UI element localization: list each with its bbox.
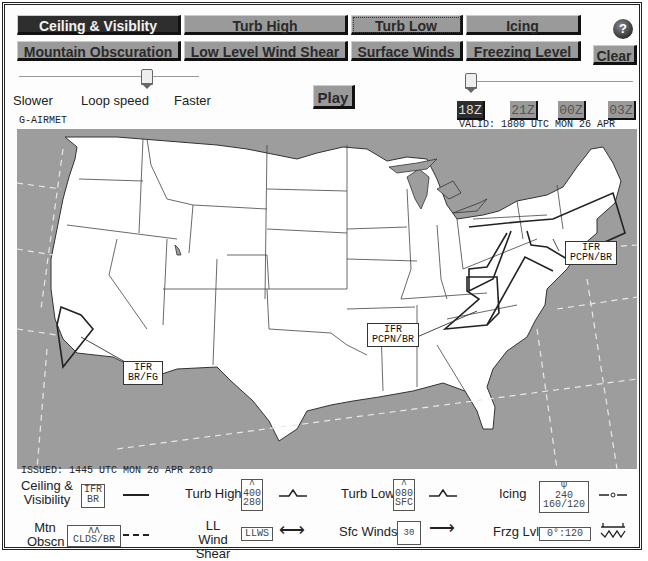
double-arrow-icon: ⟷ (279, 523, 305, 537)
legend-turb-low-line-icon (429, 489, 457, 499)
map-label-socal: IFRBR/FG (123, 361, 163, 385)
legend-sfc-winds-box: 30 (397, 521, 421, 545)
legend-solid-line-icon (123, 494, 149, 496)
legend-turb-low-box: ^080SFC (393, 479, 415, 511)
gairmet-window: Ceiling & Visiblity Turb High Turb Low I… (2, 2, 642, 550)
map-label-northeast: IFRPCPN/BR (565, 241, 617, 265)
time-button-03z[interactable]: 03Z (608, 101, 636, 120)
legend-dashed-line-icon (123, 534, 149, 536)
legend-sfc-winds-label: Sfc Winds (339, 525, 398, 539)
faster-label: Faster (174, 93, 211, 108)
low-level-wind-shear-button[interactable]: Low Level Wind Shear (184, 41, 348, 61)
legend-turb-high-box: ^400280 (241, 479, 263, 511)
time-button-00z[interactable]: 00Z (558, 101, 586, 120)
turb-low-button[interactable]: Turb Low (351, 15, 463, 35)
ceiling-visibility-button[interactable]: Ceiling & Visiblity (17, 15, 181, 35)
product-label: G-AIRMET (19, 115, 67, 126)
legend-mtn-obscn-label: MtnObscn (27, 521, 63, 549)
help-button[interactable]: ? (613, 19, 633, 39)
turb-high-button[interactable]: Turb High (184, 15, 348, 35)
slower-label: Slower (13, 93, 53, 108)
lake-erie (453, 199, 487, 213)
legend-mtn-obscn-box: ᴧᴧCLDS/BR (67, 525, 121, 547)
icing-button[interactable]: Icing (466, 15, 581, 35)
play-button[interactable]: Play (313, 85, 355, 109)
legend-frzg-lvl-label: Frzg Lvl (493, 525, 539, 539)
legend-turb-low-label: Turb Low (341, 487, 395, 501)
issued-time: ISSUED: 1445 UTC MON 26 APR 2010 (21, 465, 213, 476)
surface-winds-button[interactable]: Surface Winds (351, 41, 463, 61)
mountain-obscuration-button[interactable]: Mountain Obscuration (17, 41, 181, 61)
time-slider-thumb[interactable] (465, 73, 477, 89)
legend-turb-high-label: Turb High (185, 487, 242, 501)
loop-speed-label: Loop speed (81, 93, 149, 108)
legend-ceiling-visibility-label: Ceiling &Visibility (19, 479, 75, 507)
legend-ceiling-visibility-box: IFRBR (81, 484, 105, 508)
map-area[interactable]: IFRPCPN/BR IFRPCPN/BR IFRBR/FG (17, 129, 637, 469)
clear-button[interactable]: Clear (593, 45, 637, 65)
time-slider-track[interactable] (465, 81, 633, 82)
loop-speed-slider-track[interactable] (19, 76, 199, 77)
time-button-18z[interactable]: 18Z (457, 101, 485, 120)
legend-turb-high-line-icon (279, 489, 307, 499)
legend-icing-box: Ψ240160/120 (539, 481, 589, 513)
us-map (17, 129, 637, 469)
legend-llws-label: LL WindShear (191, 519, 235, 561)
legend-frzg-lvl-box: 0°:120 (539, 527, 591, 541)
map-label-ohio-valley: IFRPCPN/BR (367, 323, 419, 347)
loop-speed-slider-thumb[interactable] (141, 69, 153, 85)
right-arrow-icon: ⟶ (429, 521, 455, 535)
legend-llws-box: LLWS (241, 527, 273, 541)
legend-freezing-level-line-icon (599, 521, 627, 539)
legend-icing-line-icon (599, 491, 627, 499)
freezing-level-button[interactable]: Freezing Level (466, 41, 581, 61)
time-button-21z[interactable]: 21Z (510, 101, 538, 120)
legend-icing-label: Icing (499, 487, 526, 501)
